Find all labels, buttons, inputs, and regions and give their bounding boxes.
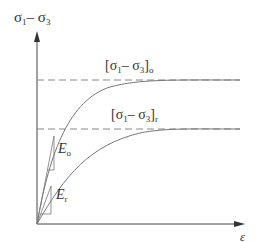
residual-strength-label: [σ1– σ3]r (111, 108, 158, 124)
peak-tangent-line (37, 136, 54, 224)
x-axis-arrow-icon (234, 221, 245, 227)
peak-strength-label: [σ1– σ3]o (105, 59, 153, 75)
residual-modulus-label: Er (56, 188, 68, 204)
y-axis-arrow-icon (34, 31, 40, 42)
x-axis-label: ε (240, 230, 245, 242)
y-axis-label: σ1– σ3 (14, 10, 50, 27)
peak-modulus-label: Eo (58, 142, 71, 158)
